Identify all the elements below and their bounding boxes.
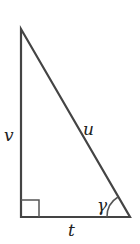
label-u: u [83, 119, 94, 139]
triangle [21, 29, 130, 217]
angle-arc [107, 197, 118, 217]
label-t: t [68, 220, 75, 240]
label-v: v [4, 125, 14, 145]
right-angle-marker [21, 200, 39, 217]
label-gamma: γ [97, 195, 108, 215]
triangle-diagram: v u t γ [0, 0, 140, 244]
